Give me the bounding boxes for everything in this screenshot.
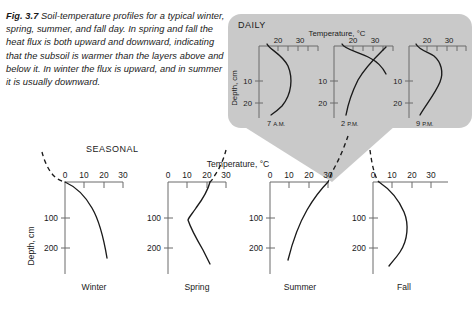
summer-x-tick-label-20: 20 [304,170,314,180]
summer-x-tick-label-10: 10 [284,170,294,180]
daily-y-tick-label-10-2: 10 [318,77,327,86]
seasonal-y-axis-title: Depth, cm [26,226,36,265]
fall-x-tick-label-10: 10 [387,170,397,180]
fall-x-tick-label-30: 30 [426,170,436,180]
winter-soil-curve [65,182,107,258]
daily-x-tick-label-30-3: 30 [445,36,454,45]
fall-x-tick-label-20: 20 [407,170,417,180]
seasonal-panel-winter: 0 10 20 30 100 200 Winter [42,152,128,292]
figure-svg: DAILY Temperature, °C Depth, cm 20 30 10… [0,0,474,310]
winter-x-tick-label-20: 20 [99,170,109,180]
daily-panel-label-2pm: 2P.M. [341,119,359,128]
daily-x-tick-label-20-1: 20 [274,36,283,45]
fall-soil-curve [379,182,407,266]
figure-container: Fig. 3.7 Soil-temperature profiles for a… [0,0,474,310]
daily-panel-label-9pm: 9P.M. [416,119,434,128]
spring-x-tick-label-0: 0 [166,170,171,180]
summer-soil-curve [288,182,328,260]
daily-y-tick-label-10-1: 10 [243,77,252,86]
winter-x-tick-label-0: 0 [63,170,68,180]
daily-group-label: DAILY [238,20,266,30]
daily-y-tick-label-20-3: 20 [393,99,402,108]
daily-y-tick-label-20-1: 20 [243,99,252,108]
fall-y-tick-label-200: 200 [352,243,366,253]
seasonal-panel-label-winter: Winter [82,282,107,292]
spring-y-tick-label-200: 200 [147,243,161,253]
winter-air-curve [42,152,65,182]
fall-y-tick-label-100: 100 [352,213,366,223]
winter-y-tick-label-100: 100 [44,213,58,223]
spring-y-tick-label-100: 100 [147,213,161,223]
daily-x-tick-label-20-3: 20 [423,36,432,45]
winter-y-tick-label-200: 200 [44,243,58,253]
seasonal-panel-label-summer: Summer [284,282,317,292]
summer-x-tick-label-0: 0 [268,170,273,180]
daily-y-tick-label-20-2: 20 [318,99,327,108]
winter-x-tick-label-10: 10 [79,170,89,180]
daily-x-tick-label-20-2: 20 [349,36,358,45]
seasonal-panel-label-spring: Spring [185,282,210,292]
seasonal-group-label: SEASONAL [86,144,139,154]
daily-y-tick-label-10-3: 10 [393,77,402,86]
summer-y-tick-label-200: 200 [249,243,263,253]
spring-soil-curve [188,182,210,264]
summer-y-tick-label-100: 100 [249,213,263,223]
daily-y-axis-title: Depth, cm [230,70,239,106]
seasonal-panel-spring: 0 10 20 30 100 200 Spring [147,150,231,292]
daily-x-tick-label-30-1: 30 [296,36,305,45]
spring-x-tick-label-10: 10 [182,170,192,180]
seasonal-panel-label-fall: Fall [397,282,411,292]
seasonal-x-axis-title: Temperature, °C [207,159,270,169]
seasonal-panel-fall: 0 10 20 30 100 200 Fall [352,150,448,292]
winter-x-tick-label-30: 30 [118,170,128,180]
spring-x-tick-label-30: 30 [221,170,231,180]
spring-x-tick-label-20: 20 [202,170,212,180]
daily-x-tick-label-30-2: 30 [371,36,380,45]
daily-panel-label-7am: 7A.M. [267,119,286,128]
